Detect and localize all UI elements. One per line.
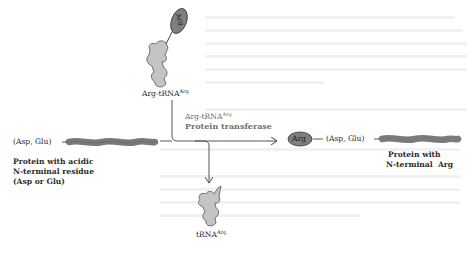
- released-trna-label-main: tRNA: [196, 230, 217, 239]
- arg-trna-label: Arg-tRNAArg: [142, 89, 189, 99]
- arg-trna-label-sup: Arg: [179, 88, 188, 94]
- substrate-caption-line2: N-terminal residue: [13, 167, 94, 177]
- substrate-caption-line3: (Asp or Glu): [13, 177, 65, 187]
- released-trna-label-sup: Arg: [217, 229, 226, 235]
- arg-trna-molecule: [147, 6, 191, 87]
- product-protein-chain: [382, 138, 458, 140]
- product-terminal-label: (Asp, Glu): [326, 134, 364, 144]
- substrate-terminal-label: (Asp, Glu): [13, 137, 51, 147]
- enzyme-name-sup: Arg: [222, 111, 231, 117]
- product-caption-line2: N-terminal Arg: [386, 160, 453, 170]
- released-trna-label: tRNAArg: [196, 230, 226, 240]
- trna-top-shape: [147, 41, 168, 87]
- enzyme-name-main: Arg-tRNA: [185, 112, 222, 121]
- trna-released-shape: [198, 186, 221, 226]
- arg-trna-label-main: Arg-tRNA: [142, 89, 179, 98]
- product-caption-line1: Protein with: [388, 150, 441, 160]
- substrate-caption-line1: Protein with acidic: [13, 157, 94, 167]
- product-arg-oval-label: Arg: [292, 134, 306, 144]
- arrow-trna-out: [195, 141, 209, 183]
- enzyme-label-line2: Protein transferase: [185, 122, 272, 132]
